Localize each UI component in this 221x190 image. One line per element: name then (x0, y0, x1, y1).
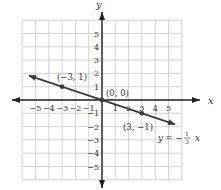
svg-text:−5: −5 (87, 163, 99, 172)
svg-text:−2: −2 (70, 104, 82, 113)
equation-frac-num: 1 (185, 130, 189, 137)
svg-text:1: 1 (94, 83, 99, 92)
svg-text:−4: −4 (43, 104, 55, 113)
point-label-neg3-1: (−3, 1) (57, 72, 87, 82)
svg-text:−5: −5 (30, 104, 42, 113)
svg-text:−3: −3 (56, 104, 68, 113)
coordinate-plane: −5−4−3−2−11234554321−1−2−3−4−5 x y (−3, … (0, 0, 221, 190)
svg-text:5: 5 (94, 30, 99, 39)
svg-text:−4: −4 (87, 149, 99, 158)
point-label-origin: (0, 0) (106, 88, 129, 98)
point-label-3-neg1: (3, −1) (123, 122, 153, 132)
svg-text:−1: −1 (87, 109, 99, 118)
svg-text:2: 2 (94, 69, 99, 78)
svg-text:3: 3 (94, 56, 99, 65)
svg-text:4: 4 (153, 104, 158, 113)
svg-text:4: 4 (94, 43, 99, 52)
axes (12, 12, 200, 188)
equation-prefix: y = − (157, 133, 182, 143)
svg-text:−2: −2 (87, 123, 99, 132)
equation-suffix: x (195, 133, 200, 143)
equation-frac-den: 3 (185, 138, 189, 145)
equation-label: y = − 1 3 x (157, 130, 200, 145)
x-axis-label: x (208, 95, 214, 106)
svg-text:−3: −3 (87, 136, 99, 145)
svg-text:5: 5 (166, 104, 171, 113)
y-axis-label: y (95, 0, 102, 10)
